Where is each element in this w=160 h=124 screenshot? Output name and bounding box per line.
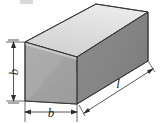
height-dimension-label: b (6, 68, 21, 75)
prism-solid (25, 4, 148, 104)
length-dimension-label: l (116, 76, 120, 91)
length-extension-line-near (79, 105, 85, 116)
length-arrowhead-far (147, 68, 154, 74)
prism-figure: b b l (0, 0, 160, 124)
width-dimension-label: b (48, 105, 55, 120)
length-arrowhead-near (83, 108, 90, 114)
figure-container: b b l (0, 0, 160, 124)
